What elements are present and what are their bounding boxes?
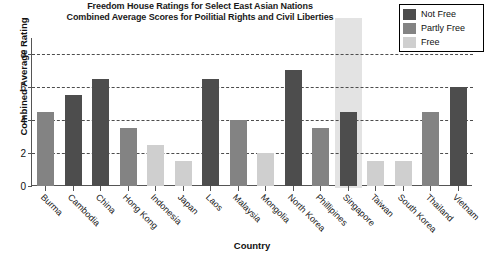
x-axis-label-slot: Phillipines [307, 191, 335, 237]
bar-slot [170, 44, 198, 186]
bar[interactable] [120, 128, 137, 186]
bar[interactable] [422, 112, 439, 186]
bar-slot [362, 44, 390, 186]
bar[interactable] [367, 161, 384, 186]
bar[interactable] [175, 161, 192, 186]
bar-slot [307, 44, 335, 186]
bar-series [32, 44, 472, 186]
bar[interactable] [147, 145, 164, 186]
y-axis-title: Combined Average Rating [18, 2, 29, 152]
x-axis-label: Vietnam [451, 192, 481, 222]
legend-item[interactable]: Partly Free [403, 21, 481, 35]
bar-slot [197, 44, 225, 186]
bar-slot [32, 44, 60, 186]
x-axis-label-slot: Mongolia [252, 191, 280, 237]
legend-item-label: Partly Free [421, 23, 465, 33]
bar-slot [445, 44, 473, 186]
x-axis-title: Country [32, 240, 472, 251]
chart-title-line-1: Freedom House Ratings for Select East As… [0, 1, 400, 12]
bar[interactable] [257, 153, 274, 186]
bar[interactable] [37, 112, 54, 186]
x-axis-label-slot: Thailand [417, 191, 445, 237]
legend-item[interactable]: Not Free [403, 7, 481, 21]
x-axis-labels: BurmaCambodiaChinaHong KongIndonesiaJapa… [32, 191, 472, 237]
bar-slot [60, 44, 88, 186]
bar-slot [335, 44, 363, 186]
x-axis-label-slot: South Korea [390, 191, 418, 237]
legend-swatch-icon [403, 9, 416, 20]
bar[interactable] [395, 161, 412, 186]
x-axis-label-slot: Taiwan [362, 191, 390, 237]
x-axis-label-slot: Laos [197, 191, 225, 237]
plot-area: 02468 [32, 44, 472, 186]
x-axis-label-slot: Hong Kong [115, 191, 143, 237]
bar-slot [115, 44, 143, 186]
x-axis-label: Laos [204, 192, 225, 213]
bar[interactable] [450, 87, 467, 186]
bar-slot [390, 44, 418, 186]
legend-swatch-icon [403, 23, 416, 34]
bar-slot [417, 44, 445, 186]
x-axis-label-slot: Vietnam [445, 191, 473, 237]
x-axis-label-slot: China [87, 191, 115, 237]
legend-item-label: Not Free [421, 9, 456, 19]
x-axis-label-slot: Singapore [335, 191, 363, 237]
bar[interactable] [92, 79, 109, 186]
bar[interactable] [230, 120, 247, 186]
bar-slot [87, 44, 115, 186]
x-axis-label-slot: Malaysia [225, 191, 253, 237]
bar-slot [252, 44, 280, 186]
bar[interactable] [285, 70, 302, 186]
x-axis-label-slot: Burma [32, 191, 60, 237]
x-axis-label-slot: North Korea [280, 191, 308, 237]
y-axis-tick-label: 0 [20, 181, 26, 192]
bar-slot [142, 44, 170, 186]
bar-slot [280, 44, 308, 186]
x-axis-label-slot: Japan [170, 191, 198, 237]
bar[interactable] [65, 95, 82, 186]
bar[interactable] [340, 112, 357, 186]
x-axis-label-slot: Cambodia [60, 191, 88, 237]
bar[interactable] [202, 79, 219, 186]
x-axis-label-slot: Indonesia [142, 191, 170, 237]
bar[interactable] [312, 128, 329, 186]
chart-container: Freedom House Ratings for Select East As… [0, 0, 487, 262]
bar-slot [225, 44, 253, 186]
